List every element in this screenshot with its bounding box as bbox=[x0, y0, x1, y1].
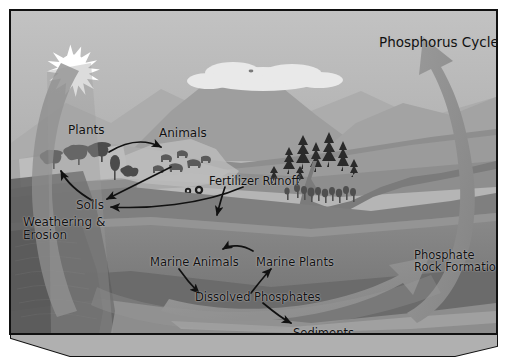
label-soils: Soils bbox=[76, 199, 104, 212]
label-plants: Plants bbox=[68, 124, 105, 137]
label-animals: Animals bbox=[159, 127, 207, 140]
landscape-illustration bbox=[11, 11, 496, 333]
label-dissolved-phosphates: Dissolved Phosphates bbox=[195, 291, 321, 303]
label-marine-animals: Marine Animals bbox=[150, 256, 239, 268]
label-fertilizer-runoff: Fertilizer Runoff bbox=[209, 175, 299, 187]
label-weathering-erosion: Weathering & Erosion bbox=[23, 216, 105, 242]
label-marine-plants: Marine Plants bbox=[256, 256, 334, 268]
label-phosphate-rock-formation: Phosphate Rock Formation bbox=[414, 249, 498, 274]
phosphorus-cycle-figure: Phosphorus Cycle Plants Animals Fertiliz… bbox=[0, 0, 507, 364]
scene-frame: Phosphorus Cycle Plants Animals Fertiliz… bbox=[9, 9, 498, 335]
diagram-title: Phosphorus Cycle bbox=[379, 35, 498, 50]
bird-speck bbox=[249, 70, 254, 73]
label-sediments: Sediments bbox=[293, 327, 354, 335]
box-base-shade bbox=[11, 333, 497, 356]
